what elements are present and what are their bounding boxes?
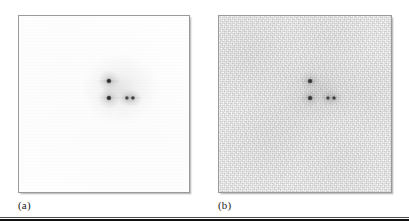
spot-glow [300, 71, 320, 91]
streak-artifact [95, 80, 124, 82]
diffraction-spot [326, 96, 330, 100]
diffraction-spot [308, 95, 313, 100]
diffraction-spot [131, 96, 135, 100]
streak-artifact [323, 97, 345, 99]
bottom-rule [0, 219, 409, 221]
diffraction-spot [332, 96, 336, 100]
spot-glow [326, 89, 343, 106]
streak-artifact [297, 97, 323, 99]
figure-root: (a) (b) [0, 0, 409, 224]
spot-glow [300, 88, 320, 108]
panel-a-frame [18, 15, 190, 193]
spot-glow [124, 89, 142, 107]
panel-b-label: (b) [218, 199, 231, 211]
spot-glow [98, 70, 120, 92]
panel-b [218, 15, 392, 193]
diffraction-spot [106, 78, 111, 83]
central-halo [281, 54, 361, 125]
bottom-rule-hairline [0, 217, 409, 218]
spot-glow [118, 89, 136, 107]
diffraction-spot [106, 95, 111, 100]
spot-glow [98, 87, 120, 109]
panel-a [18, 15, 190, 193]
diffraction-spot [308, 79, 313, 84]
streak-artifact [95, 97, 124, 99]
spot-glow [320, 89, 337, 106]
panel-b-noise-blotches [219, 16, 391, 192]
streak-artifact [115, 97, 138, 99]
panel-a-label: (a) [18, 199, 31, 211]
streak-artifact [297, 80, 323, 82]
panel-a-plate [19, 16, 189, 192]
panel-a-noise-texture [18, 15, 190, 193]
streak-artifact [317, 97, 339, 99]
diffraction-spot [125, 96, 129, 100]
panel-b-noise-texture [218, 15, 392, 193]
panel-b-plate [219, 16, 391, 192]
central-halo [80, 54, 159, 125]
panel-b-frame [218, 15, 392, 193]
streak-artifact [121, 97, 144, 99]
